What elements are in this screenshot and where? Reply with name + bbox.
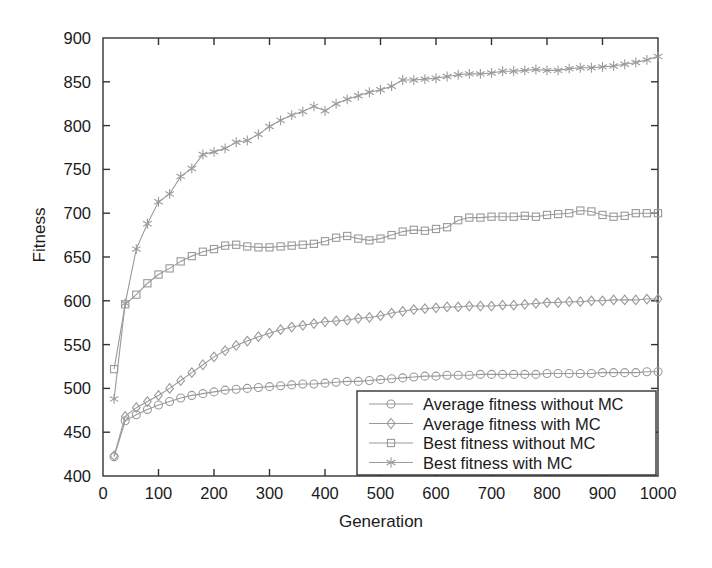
x-tick-100: 100 bbox=[145, 484, 173, 502]
y-tick-400: 400 bbox=[63, 467, 91, 485]
x-tick-400: 400 bbox=[311, 484, 339, 502]
chart-plot: 400450500550600650700750800850900 010020… bbox=[0, 0, 712, 568]
chart-legend[interactable]: Average fitness without MCAverage fitnes… bbox=[357, 391, 656, 475]
x-axis-tick-labels: 01002003004005006007008009001000 bbox=[98, 484, 676, 502]
y-tick-750: 750 bbox=[63, 160, 91, 178]
y-tick-550: 550 bbox=[63, 336, 91, 354]
series-asterisk bbox=[110, 51, 662, 403]
legend-label-2: Best fitness without MC bbox=[423, 434, 595, 452]
legend-label-1: Average fitness with MC bbox=[423, 415, 601, 433]
x-tick-1000: 1000 bbox=[640, 484, 677, 502]
legend-label-0: Average fitness without MC bbox=[423, 395, 624, 413]
x-tick-200: 200 bbox=[200, 484, 228, 502]
legend-label-3: Best fitness with MC bbox=[423, 454, 573, 472]
x-tick-900: 900 bbox=[589, 484, 617, 502]
x-tick-700: 700 bbox=[478, 484, 506, 502]
y-axis-tick-labels: 400450500550600650700750800850900 bbox=[63, 29, 91, 485]
y-tick-850: 850 bbox=[63, 73, 91, 91]
y-tick-900: 900 bbox=[63, 29, 91, 47]
y-axis-title: Fitness bbox=[30, 205, 50, 265]
x-axis-title: Generation bbox=[103, 512, 659, 532]
x-tick-300: 300 bbox=[256, 484, 284, 502]
y-tick-450: 450 bbox=[63, 423, 91, 441]
y-tick-700: 700 bbox=[63, 204, 91, 222]
y-tick-500: 500 bbox=[63, 379, 91, 397]
series-square bbox=[111, 207, 662, 373]
x-tick-600: 600 bbox=[422, 484, 450, 502]
y-tick-600: 600 bbox=[63, 292, 91, 310]
x-tick-0: 0 bbox=[98, 484, 107, 502]
y-tick-800: 800 bbox=[63, 117, 91, 135]
x-tick-800: 800 bbox=[533, 484, 561, 502]
x-tick-500: 500 bbox=[367, 484, 395, 502]
figure-container: Fitness Generation 400450500550600650700… bbox=[0, 0, 712, 568]
y-tick-650: 650 bbox=[63, 248, 91, 266]
